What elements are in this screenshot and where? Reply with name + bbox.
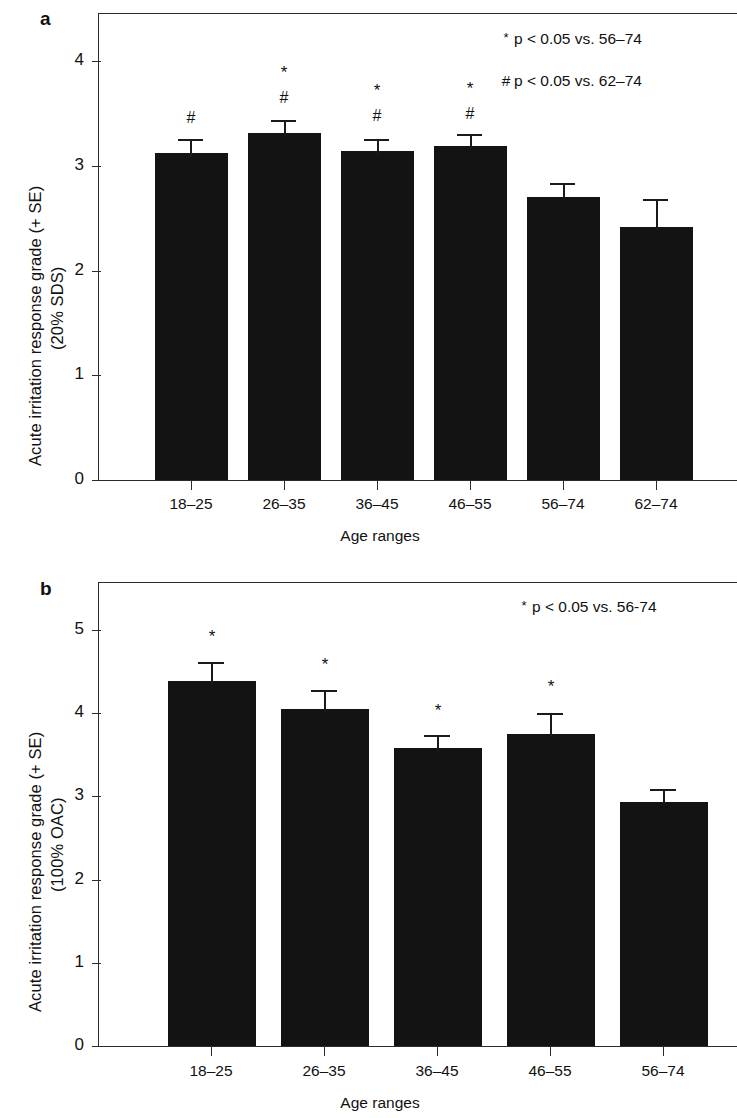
panel-a-legend-star-symbol: * xyxy=(498,30,514,45)
panel-a-y-axis-title: Acute irritation response grade (+ SE) xyxy=(26,186,45,466)
panel-a-legend-row-star: *p < 0.05 vs. 56–74 xyxy=(498,30,642,48)
panel-a-xtick-1 xyxy=(284,481,285,490)
panel-b: b Acute irritation response grade (+ SE)… xyxy=(0,560,737,1118)
errorbar-cap-a-18-25 xyxy=(178,139,203,141)
errorbar-cap-a-26-35 xyxy=(271,120,296,122)
panel-a-ytick-4 xyxy=(92,61,101,62)
panel-b-xtick-1 xyxy=(324,1047,325,1056)
panel-b-ytick-1 xyxy=(92,963,101,964)
errorbar-cap-b-46-55 xyxy=(537,713,563,715)
errorbar-cap-b-56-74 xyxy=(650,789,676,791)
panel-b-letter: b xyxy=(40,578,52,600)
errorbar-stem-b-36-45 xyxy=(437,735,439,751)
bar-a-18-25 xyxy=(155,153,228,480)
panel-b-xtick-4 xyxy=(663,1047,664,1056)
bar-a-62-74 xyxy=(620,227,693,480)
errorbar-stem-a-26-35 xyxy=(284,120,286,137)
panel-b-ytick-2 xyxy=(92,880,101,881)
errorbar-cap-a-46-55 xyxy=(457,134,482,136)
bar-a-46-55 xyxy=(434,146,507,480)
panel-b-legend-star-text: p < 0.05 vs. 56-74 xyxy=(532,598,657,615)
panel-a-frame-top xyxy=(98,13,737,14)
panel-a-ytick-label-4: 4 xyxy=(58,50,84,70)
panel-a-xtick-2 xyxy=(377,481,378,490)
panel-a-xtick-label-3: 46–55 xyxy=(430,495,510,513)
errorbar-stem-b-46-55 xyxy=(550,713,552,737)
panel-a-ytick-label-0: 0 xyxy=(58,469,84,489)
panel-a-ytick-0 xyxy=(92,480,101,481)
panel-b-ytick-label-2: 2 xyxy=(58,869,84,889)
panel-a-xtick-label-1: 26–35 xyxy=(244,495,324,513)
bar-b-56-74 xyxy=(620,802,708,1046)
bar-a-36-45 xyxy=(341,151,414,480)
panel-b-xtick-label-2: 36–45 xyxy=(397,1062,477,1080)
panel-b-frame-left xyxy=(98,582,99,1047)
panel-a-xtick-0 xyxy=(191,481,192,490)
panel-b-y-axis-title: Acute irritation response grade (+ SE) xyxy=(26,732,45,1012)
panel-a-x-axis-title: Age ranges xyxy=(300,527,460,545)
panel-b-ytick-5 xyxy=(92,630,101,631)
significance-b-36-45: * xyxy=(413,702,463,719)
errorbar-cap-b-18-25 xyxy=(198,662,224,664)
significance-a-36-45-star: * xyxy=(352,82,402,99)
panel-a-xtick-3 xyxy=(470,481,471,490)
errorbar-stem-a-46-55 xyxy=(470,134,472,149)
bar-b-18-25 xyxy=(168,681,256,1046)
panel-b-frame-top xyxy=(98,582,737,583)
panel-b-ytick-3 xyxy=(92,796,101,797)
significance-a-36-45-hash: # xyxy=(352,108,402,124)
significance-b-18-25: * xyxy=(187,628,237,645)
panel-a-ytick-label-1: 1 xyxy=(58,364,84,384)
panel-a-xtick-5 xyxy=(656,481,657,490)
errorbar-stem-a-56-74 xyxy=(563,183,565,200)
panel-b-legend-row-star: *p < 0.05 vs. 56-74 xyxy=(516,598,657,616)
significance-b-46-55: * xyxy=(526,678,576,695)
panel-a-frame-left xyxy=(98,13,99,481)
bar-a-56-74 xyxy=(527,197,600,480)
errorbar-stem-a-18-25 xyxy=(190,139,192,157)
errorbar-cap-b-26-35 xyxy=(311,690,337,692)
significance-a-18-25: # xyxy=(166,110,216,126)
panel-a-letter: a xyxy=(40,8,51,30)
panel-a-legend-hash-symbol: # xyxy=(498,72,514,90)
panel-a: a Acute irritation response grade (+ SE)… xyxy=(0,0,737,560)
panel-a-legend-row-hash: #p < 0.05 vs. 62–74 xyxy=(498,72,642,90)
errorbar-cap-a-56-74 xyxy=(550,183,575,185)
panel-b-xtick-label-1: 26–35 xyxy=(284,1062,364,1080)
panel-b-ytick-label-1: 1 xyxy=(58,952,84,972)
bar-b-36-45 xyxy=(394,748,482,1046)
panel-b-xtick-label-4: 56–74 xyxy=(623,1062,703,1080)
panel-a-xtick-label-4: 56–74 xyxy=(523,495,603,513)
errorbar-cap-a-36-45 xyxy=(364,139,389,141)
panel-a-ytick-1 xyxy=(92,375,101,376)
bar-b-26-35 xyxy=(281,709,369,1046)
significance-a-46-55-hash: # xyxy=(445,106,495,122)
panel-a-ytick-2 xyxy=(92,271,101,272)
panel-b-x-axis-title: Age ranges xyxy=(300,1094,460,1112)
panel-a-ytick-label-3: 3 xyxy=(58,155,84,175)
significance-b-26-35: * xyxy=(300,656,350,673)
panel-a-xtick-label-0: 18–25 xyxy=(151,495,231,513)
panel-b-xtick-label-0: 18–25 xyxy=(171,1062,251,1080)
panel-b-ytick-label-5: 5 xyxy=(58,619,84,639)
panel-b-axis-baseline xyxy=(98,1046,737,1047)
panel-a-xtick-label-2: 36–45 xyxy=(337,495,417,513)
panel-b-ytick-label-3: 3 xyxy=(58,785,84,805)
errorbar-stem-b-56-74 xyxy=(663,789,665,805)
significance-a-46-55-star: * xyxy=(445,80,495,97)
panel-b-ytick-4 xyxy=(92,713,101,714)
panel-a-xtick-4 xyxy=(563,481,564,490)
panel-a-ytick-label-2: 2 xyxy=(58,260,84,280)
errorbar-stem-b-26-35 xyxy=(324,690,326,712)
panel-b-xtick-2 xyxy=(437,1047,438,1056)
panel-b-xtick-0 xyxy=(211,1047,212,1056)
panel-a-xtick-label-5: 62–74 xyxy=(616,495,696,513)
panel-a-legend-hash-text: p < 0.05 vs. 62–74 xyxy=(514,72,642,89)
errorbar-cap-a-62-74 xyxy=(643,199,668,201)
panel-a-axis-baseline xyxy=(98,480,737,481)
panel-b-xtick-3 xyxy=(550,1047,551,1056)
significance-a-26-35-hash: # xyxy=(259,90,309,106)
errorbar-stem-a-36-45 xyxy=(377,139,379,155)
panel-b-xtick-label-3: 46–55 xyxy=(510,1062,590,1080)
errorbar-stem-a-62-74 xyxy=(656,199,658,230)
